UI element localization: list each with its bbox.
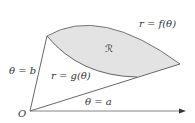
label-theta-a: θ = a xyxy=(85,96,112,107)
label-theta-b: θ = b xyxy=(9,65,36,76)
axis-arrowhead-icon xyxy=(179,109,186,114)
label-origin: O xyxy=(18,108,26,119)
label-region: ℛ xyxy=(105,43,113,54)
polar-region-diagram: r = f(θ) r = g(θ) ℛ θ = b θ = a O xyxy=(0,0,195,123)
label-inner-curve: r = g(θ) xyxy=(51,70,91,81)
label-outer-curve: r = f(θ) xyxy=(139,18,176,29)
